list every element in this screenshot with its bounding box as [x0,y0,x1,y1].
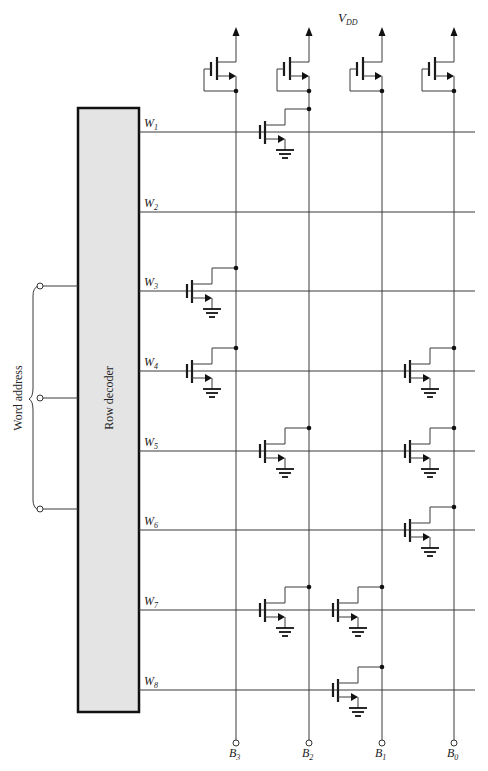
word-line-label-6: W6 [144,514,158,530]
ground-icon [421,548,439,556]
vdd-arrow-icon [306,27,313,36]
ground-icon [421,389,439,397]
junction-dot [452,346,457,351]
ground-icon [421,469,439,477]
junction-dot [452,89,457,94]
junction-dot [234,266,239,271]
word-line-label-7: W7 [144,594,159,610]
load-drain-wire [363,34,382,62]
ground-icon [276,469,294,477]
load-drain-wire [217,34,236,62]
cell-drain-wire [410,428,454,444]
source-arrow-icon [278,135,285,143]
cell-drain-wire [410,507,454,523]
source-arrow-icon [278,613,285,621]
vdd-arrow-icon [451,27,458,36]
row-decoder: Row decoder [78,108,139,712]
source-arrow-icon [205,294,212,302]
cell-drain-wire [338,587,382,603]
junction-dot [380,89,385,94]
word-line-label-8: W8 [144,674,158,690]
load-transistors [204,27,458,93]
source-arrow-icon [229,72,236,80]
load-gate-tie [422,69,454,91]
load-transistor [350,27,386,93]
word-line-label-1: W1 [144,116,158,132]
word-line-label-4: W4 [144,355,158,371]
junction-dot [307,426,312,431]
bit-line-label-B1: B1 [375,746,386,762]
source-arrow-icon [423,533,430,541]
cell-drain-wire [192,268,236,284]
word-line-label-5: W5 [144,435,158,451]
word-address-inputs: Word address [11,283,78,512]
cell-drain-wire [265,428,309,444]
load-transistor [277,27,313,93]
ground-icon [203,389,221,397]
ground-icon [349,628,367,636]
vdd-arrow-icon [233,27,240,36]
junction-dot [307,585,312,590]
bit-line-label-B0: B0 [447,746,458,762]
junction-dot [234,89,239,94]
source-arrow-icon [423,374,430,382]
junction-dot [307,107,312,112]
cell-transistors [187,107,456,716]
junction-dot [380,585,385,590]
load-drain-wire [290,34,309,62]
source-arrow-icon [375,72,382,80]
source-arrow-icon [278,454,285,462]
cell-drain-wire [410,348,454,364]
junction-dot [380,665,385,670]
vdd-arrow-icon [379,27,386,36]
address-input-terminal [37,395,43,401]
source-arrow-icon [302,72,309,80]
cell-drain-wire [192,348,236,364]
load-gate-tie [350,69,382,91]
source-arrow-icon [351,613,358,621]
ground-icon [203,309,221,317]
word-address-label: Word address [11,365,25,431]
load-transistor [422,27,458,93]
word-lines: W1W2W3W4W5W6W7W8 [139,116,475,690]
source-arrow-icon [351,693,358,701]
address-input-terminal [37,506,43,512]
load-gate-tie [277,69,309,91]
load-drain-wire [435,34,454,62]
source-arrow-icon [423,454,430,462]
load-gate-tie [204,69,236,91]
cell-drain-wire [338,667,382,683]
vdd-label: VDD [338,10,358,27]
cell-drain-wire [265,587,309,603]
load-transistor [204,27,240,93]
bit-lines: B3B2B1B0 [229,91,458,762]
word-line-label-3: W3 [144,275,158,291]
source-arrow-icon [447,72,454,80]
junction-dot [307,89,312,94]
bit-line-label-B2: B2 [302,746,313,762]
junction-dot [452,426,457,431]
bit-line-label-B3: B3 [229,746,240,762]
source-arrow-icon [205,374,212,382]
address-input-terminal [37,283,43,289]
junction-dot [234,346,239,351]
cell-drain-wire [265,109,309,125]
ground-icon [276,628,294,636]
ground-icon [349,708,367,716]
row-decoder-label: Row decoder [102,366,116,430]
junction-dot [452,505,457,510]
ground-icon [276,150,294,158]
rom-circuit-diagram: VDD Row decoder Word address W1W2W3W4W5W… [0,0,488,771]
word-line-label-2: W2 [144,196,158,212]
